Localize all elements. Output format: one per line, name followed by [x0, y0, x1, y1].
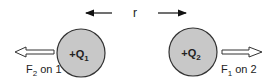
- charge-1-label: +Q: [69, 48, 84, 60]
- separation-arrow: r: [86, 6, 186, 20]
- charge-2: +Q2: [169, 28, 217, 76]
- force-on-2: F1 on 2: [221, 47, 262, 78]
- force-1-rest: on 1: [37, 63, 61, 75]
- svg-text:F2 on 1: F2 on 1: [26, 63, 62, 78]
- force-2-rest: on 2: [232, 63, 256, 75]
- svg-text:F1 on 2: F1 on 2: [221, 63, 257, 78]
- charge-1: +Q1: [57, 29, 105, 77]
- coulomb-force-diagram: r +Q1 +Q2 F2 on 1 F1 on 2: [0, 0, 270, 82]
- separation-label: r: [133, 6, 137, 20]
- hollow-arrow-left-icon: [15, 47, 54, 57]
- force-on-1: F2 on 1: [15, 47, 62, 78]
- charge-2-subscript: 2: [196, 53, 201, 62]
- hollow-arrow-right-icon: [222, 47, 262, 57]
- charge-1-subscript: 1: [84, 54, 89, 63]
- charge-2-label: +Q: [181, 47, 196, 59]
